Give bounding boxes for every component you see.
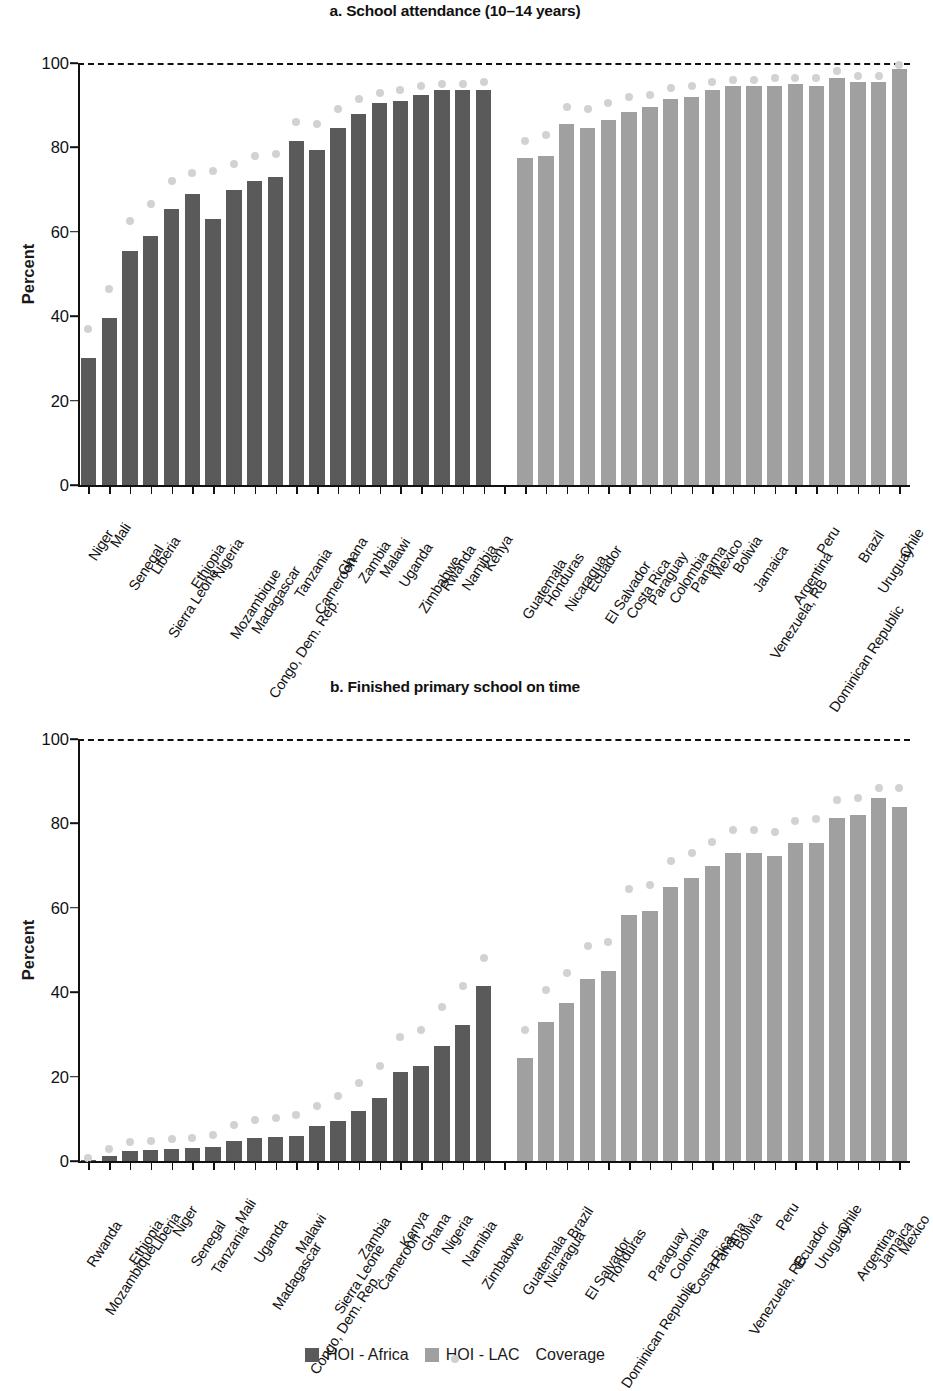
x-axis-label: El Salvador xyxy=(577,1175,598,1185)
coverage-dot xyxy=(334,1092,342,1100)
x-axis-label: Guatemala xyxy=(515,1175,536,1185)
legend-item-coverage: Coverage xyxy=(536,1346,605,1364)
bar-africa xyxy=(164,209,179,485)
x-axis-label: Ethiopia xyxy=(120,1175,141,1185)
x-axis-label: Brazil xyxy=(847,499,868,509)
bar-lac xyxy=(684,97,699,485)
coverage-dot xyxy=(313,120,321,128)
panel-b-y-tick-mark xyxy=(70,907,78,909)
legend-label: Coverage xyxy=(536,1346,605,1364)
coverage-dot xyxy=(313,1102,321,1110)
x-axis-label: Zimbabwe xyxy=(473,1175,494,1185)
coverage-dot xyxy=(480,954,488,962)
coverage-dot xyxy=(417,82,425,90)
coverage-dot xyxy=(771,74,779,82)
panel-a-y-tick-mark xyxy=(70,147,78,149)
bar-slot xyxy=(224,739,245,1161)
bar-slot xyxy=(847,739,868,1161)
bar-africa xyxy=(372,1098,387,1161)
bar-slot xyxy=(307,63,328,485)
legend-swatch-coverage-icon xyxy=(451,1355,459,1363)
bar-africa xyxy=(247,181,262,485)
bar-slot xyxy=(806,63,827,485)
bar-africa xyxy=(102,318,117,485)
bar-slot xyxy=(161,63,182,485)
coverage-dot xyxy=(854,794,862,802)
bar-lac xyxy=(809,86,824,485)
x-axis-label-text: Rwanda xyxy=(84,1218,125,1270)
bar-slot xyxy=(640,63,661,485)
x-axis-label: Honduras xyxy=(598,1175,619,1185)
coverage-dot xyxy=(688,82,696,90)
panel-a-y-tick-mark xyxy=(70,62,78,64)
x-axis-label: Paraguay xyxy=(640,499,661,509)
bar-lac xyxy=(746,853,761,1161)
x-axis-label: Dominican Republic xyxy=(619,1175,640,1185)
panel-a-x-axis-line xyxy=(78,485,910,487)
coverage-dot xyxy=(105,1145,113,1153)
panel-a-y-axis-label: Percent xyxy=(0,244,28,304)
coverage-dot xyxy=(459,80,467,88)
bar-slot xyxy=(244,739,265,1161)
x-axis-label: Mali xyxy=(99,499,120,509)
x-axis-label: Brazil xyxy=(556,1175,577,1185)
x-axis-label: Tanzania xyxy=(203,1175,224,1185)
panel-b-y-axis-label: Percent xyxy=(0,920,28,980)
bar-slot xyxy=(99,63,120,485)
x-axis-label: Nicaragua xyxy=(556,499,577,509)
bar-africa xyxy=(351,114,366,485)
coverage-dot xyxy=(376,1062,384,1070)
coverage-dot xyxy=(292,118,300,126)
x-axis-label: Cameroon xyxy=(369,1175,390,1185)
x-axis-label-spacer xyxy=(494,499,515,509)
bar-africa xyxy=(413,1066,428,1161)
x-axis-label: Ghana xyxy=(328,499,349,509)
bar-slot xyxy=(702,63,723,485)
bar-slot xyxy=(99,739,120,1161)
x-axis-label: Panama xyxy=(702,1175,723,1185)
panel-b-y-tick-mark xyxy=(70,1076,78,1078)
coverage-dot xyxy=(542,131,550,139)
coverage-dot xyxy=(729,76,737,84)
bar-slot xyxy=(452,63,473,485)
x-axis-label: Mozambique xyxy=(224,499,245,509)
bar-slot xyxy=(161,739,182,1161)
x-axis-label: Venezuela, RB xyxy=(764,499,785,509)
coverage-dot xyxy=(563,969,571,977)
coverage-dot xyxy=(667,84,675,92)
bar-africa xyxy=(122,1151,137,1161)
bar-slot xyxy=(577,739,598,1161)
bar-africa xyxy=(205,1147,220,1161)
x-axis-label: Bolivia xyxy=(723,1175,744,1185)
bar-africa xyxy=(289,141,304,485)
bar-lac xyxy=(850,815,865,1161)
x-axis-label: Sierra Leone xyxy=(328,1175,349,1185)
bar-lac xyxy=(663,99,678,485)
bar-lac xyxy=(601,971,616,1161)
bar-lac xyxy=(767,86,782,485)
x-axis-label: Cameroon xyxy=(307,499,328,509)
bar-slot xyxy=(764,739,785,1161)
bar-lac xyxy=(871,82,886,485)
bar-slot xyxy=(598,63,619,485)
legend-swatch-africa-icon xyxy=(305,1348,319,1362)
bar-lac xyxy=(538,1022,553,1161)
bar-slot xyxy=(577,63,598,485)
x-axis-label: Malawi xyxy=(369,499,390,509)
bar-slot xyxy=(702,739,723,1161)
coverage-dot xyxy=(396,1033,404,1041)
bar-slot xyxy=(78,63,99,485)
bar-slot xyxy=(744,63,765,485)
x-axis-label: Namibia xyxy=(452,1175,473,1185)
bar-slot xyxy=(660,739,681,1161)
bar-lac xyxy=(829,818,844,1161)
x-axis-label: Jamaica xyxy=(744,499,765,509)
coverage-dot xyxy=(521,137,529,145)
coverage-dot xyxy=(812,815,820,823)
coverage-dot xyxy=(521,1026,529,1034)
bar-lac xyxy=(517,1058,532,1161)
bar-lac xyxy=(601,120,616,485)
bar-slot xyxy=(390,739,411,1161)
bar-slot xyxy=(203,739,224,1161)
x-axis-label: Liberia xyxy=(140,499,161,509)
